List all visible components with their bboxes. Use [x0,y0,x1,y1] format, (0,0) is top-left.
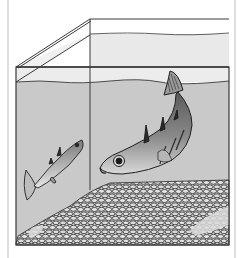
small-fish-eye [75,143,79,147]
tank-back-water-top [90,34,229,67]
aquarium-illustration: Aquarium with two stickleback fish [0,0,241,258]
tank-back-air [90,19,229,34]
aquarium-drawing [0,0,241,258]
